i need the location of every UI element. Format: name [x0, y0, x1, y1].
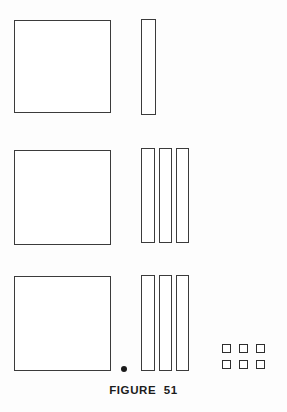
panel-square-row3: [14, 276, 111, 371]
panel-strip-row2-3: [176, 148, 189, 243]
panel-strip-row1-1: [141, 19, 156, 115]
panel-square-row1: [14, 20, 111, 113]
small-square-chip: [256, 360, 265, 369]
small-square-chip: [222, 344, 231, 353]
figure-canvas: FIGURE 51: [0, 0, 287, 412]
panel-strip-row2-2: [159, 148, 172, 243]
panel-strip-row3-2: [159, 275, 172, 371]
panel-strip-row3-1: [141, 275, 155, 371]
small-square-chip: [222, 360, 231, 369]
small-square-chip: [256, 344, 265, 353]
panel-strip-row2-1: [141, 148, 155, 243]
panel-strip-row3-3: [176, 275, 189, 371]
small-square-chip: [239, 360, 248, 369]
marker-dot: [121, 366, 127, 372]
small-square-chip: [239, 344, 248, 353]
panel-square-row2: [14, 150, 111, 245]
figure-caption: FIGURE 51: [0, 384, 287, 396]
